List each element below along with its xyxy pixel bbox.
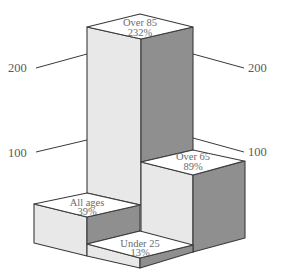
ytick-right-200: 200 bbox=[248, 61, 267, 75]
label-over-85-value: 232% bbox=[128, 27, 153, 38]
ytick-left-200: 200 bbox=[8, 61, 27, 75]
bar-chart-3d: 200 200 100 100 Over bbox=[0, 0, 281, 277]
label-over-65-value: 89% bbox=[183, 161, 203, 172]
ytick-right-100: 100 bbox=[248, 145, 267, 159]
label-all-ages-value: 39% bbox=[77, 206, 97, 217]
label-under-25-value: 13% bbox=[130, 247, 150, 258]
ytick-left-100: 100 bbox=[8, 146, 27, 160]
